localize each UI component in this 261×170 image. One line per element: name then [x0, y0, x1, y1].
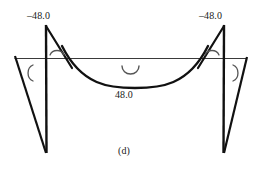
left-support-moment-label: –48.0	[27, 11, 50, 21]
bending-moment-diagram-svg	[0, 0, 261, 170]
right-overhang-curvature-arc-icon	[233, 65, 238, 81]
midspan-curvature-arc-icon	[122, 66, 139, 74]
right-support-moment-label: –48.0	[199, 11, 222, 21]
left-support-ordinate	[46, 25, 47, 153]
left-overhang-moment-line	[15, 56, 46, 153]
midspan-moment-label: 48.0	[115, 90, 133, 100]
figure-caption: (d)	[118, 146, 130, 156]
right-overhang-moment-line	[224, 57, 247, 153]
left-overhang-curvature-arc-icon	[28, 65, 33, 81]
right-support-peak-line	[198, 26, 224, 68]
bending-moment-figure: –48.0 –48.0 48.0 (d)	[0, 0, 261, 170]
midspan-parabola-curve	[62, 46, 208, 88]
right-support-ordinate	[224, 25, 225, 153]
left-support-peak-line	[46, 26, 72, 68]
